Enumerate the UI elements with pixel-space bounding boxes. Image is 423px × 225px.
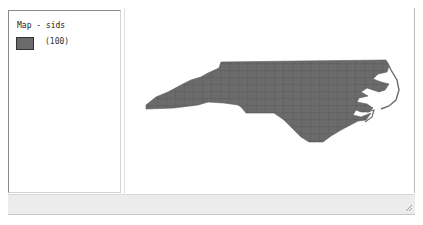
state-shape[interactable]	[146, 60, 389, 142]
legend-title: Map - sids	[17, 21, 65, 30]
resize-grip-icon[interactable]	[405, 204, 413, 212]
legend-swatch[interactable]	[16, 37, 34, 50]
status-bar	[8, 194, 415, 215]
legend-panel: Map - sids (100)	[8, 10, 121, 193]
nc-counties-map	[125, 8, 416, 193]
legend-item-label: (100)	[45, 37, 69, 46]
map-canvas[interactable]	[124, 8, 415, 193]
